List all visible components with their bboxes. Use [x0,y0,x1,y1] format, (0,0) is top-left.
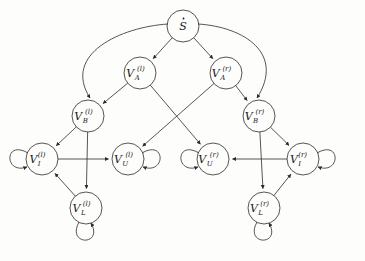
node-Br[interactable]: VB(r) [243,100,275,132]
edge-Bl-to-Il [56,127,76,146]
node-S[interactable]: S [167,10,199,42]
node-Ar[interactable]: VA(r) [210,57,242,89]
self-loop-Ul [142,150,160,168]
node-Lr[interactable]: VL(r) [248,192,280,224]
edge-Br-to-Lr [260,132,263,189]
diagram-canvas: SVA(l)VA(r)VB(l)VB(r)VI(l)VU(l)VU(r)VI(r… [0,0,365,261]
self-loop-Ur [181,150,199,168]
edge-Al-to-Ur [150,85,200,144]
node-Ur[interactable]: VU(r) [197,143,229,175]
node-Ll[interactable]: VL(l) [70,192,102,224]
self-loop-Il [10,150,28,168]
node-label-S: S [179,20,187,33]
edge-S-to-Bl [83,24,168,98]
node-Bl[interactable]: VB(l) [72,100,104,132]
edge-S-to-Al [153,38,172,59]
node-Al[interactable]: VA(l) [124,57,156,89]
edge-Ar-to-Br [236,86,247,101]
edge-Bl-to-Ll [86,132,87,189]
edge-Br-to-Ir [270,127,289,145]
node-layer: SVA(l)VA(r)VB(l)VB(r)VI(l)VU(l)VU(r)VI(r… [26,10,319,224]
node-Ul[interactable]: VU(l) [112,143,144,175]
derivative-dot-S [183,18,185,20]
edge-S-to-Ar [194,38,213,59]
self-loop-Ir [317,150,335,168]
edge-Lr-to-Ir [274,174,291,195]
edge-Ll-to-Il [55,174,75,197]
node-Il[interactable]: VI(l) [26,143,58,175]
self-loop-Lr [254,222,272,240]
self-loop-Ll [76,222,94,240]
edge-Al-to-Bl [103,83,128,103]
self-loop-layer [10,150,335,240]
edge-Ar-to-Ul [143,84,214,147]
node-Ir[interactable]: VI(r) [287,143,319,175]
graph-svg: SVA(l)VA(r)VB(l)VB(r)VI(l)VU(l)VU(r)VI(r… [0,0,365,261]
